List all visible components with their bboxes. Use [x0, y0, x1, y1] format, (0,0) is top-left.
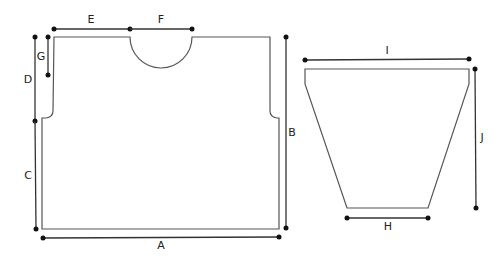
- dimension-h: H: [345, 216, 431, 234]
- dimension-i: I: [303, 44, 472, 63]
- dimension-d: D: [24, 35, 38, 124]
- dimension-c: C: [24, 121, 38, 232]
- dimension-label-e: E: [88, 13, 95, 26]
- dimension-label-a: A: [157, 239, 165, 252]
- dimension-f: F: [130, 13, 195, 32]
- dimension-b: B: [284, 35, 296, 231]
- dimension-label-f: F: [158, 13, 164, 26]
- dimension-j: J: [473, 67, 484, 211]
- dimension-label-h: H: [384, 220, 392, 233]
- dimension-a: A: [41, 235, 282, 253]
- dimension-label-c: C: [24, 169, 32, 182]
- schematic-diagram: E F G D C A B: [0, 0, 502, 262]
- dimension-label-d: D: [24, 73, 32, 86]
- dimension-label-j: J: [479, 131, 483, 144]
- dimension-label-b: B: [288, 126, 296, 139]
- body-panel-outline: [42, 37, 279, 229]
- dimension-g: G: [37, 35, 51, 78]
- dimension-label-g: G: [37, 50, 46, 63]
- sleeve-outline: [305, 69, 469, 208]
- dimension-e: E: [52, 13, 133, 32]
- dimension-label-i: I: [385, 44, 388, 57]
